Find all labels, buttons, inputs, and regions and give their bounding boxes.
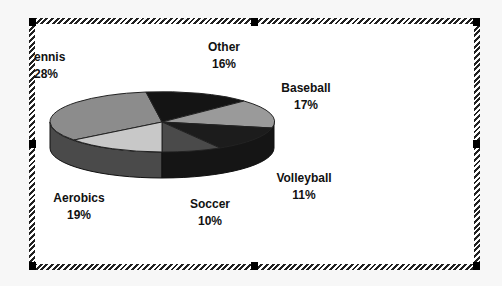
label-soccer-name: Soccer <box>182 196 238 213</box>
label-volleyball: Volleyball 11% <box>268 170 340 204</box>
pie-top <box>50 92 275 152</box>
label-other-name: Other <box>200 39 248 56</box>
label-aerobics: Aerobics 19% <box>44 190 114 224</box>
label-baseball-name: Baseball <box>275 80 337 97</box>
label-volleyball-name: Volleyball <box>268 170 340 187</box>
label-tennis-percent: 28% <box>34 66 65 83</box>
label-aerobics-name: Aerobics <box>44 190 114 207</box>
label-other-percent: 16% <box>200 56 248 73</box>
label-tennis: ennis 28% <box>34 49 65 83</box>
label-baseball-percent: 17% <box>275 97 337 114</box>
label-volleyball-percent: 11% <box>268 187 340 204</box>
label-soccer: Soccer 10% <box>182 196 238 230</box>
label-baseball: Baseball 17% <box>275 80 337 114</box>
pie-chart[interactable] <box>0 0 502 286</box>
label-aerobics-percent: 19% <box>44 207 114 224</box>
label-soccer-percent: 10% <box>182 213 238 230</box>
label-other: Other 16% <box>200 39 248 73</box>
label-tennis-name: ennis <box>34 49 65 66</box>
